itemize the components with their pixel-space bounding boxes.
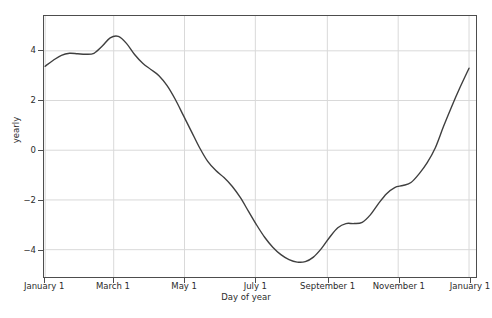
- y-tick-label: 0: [6, 145, 36, 155]
- y-tick-label: −4: [6, 245, 36, 255]
- data-line-yearly: [44, 16, 476, 277]
- y-tick-label: −2: [6, 195, 36, 205]
- x-axis-label: Day of year: [0, 292, 492, 302]
- x-tick-label: January 1: [425, 281, 492, 291]
- plot-area: [43, 15, 477, 278]
- y-tick-label: 2: [6, 95, 36, 105]
- y-tick-label: 4: [6, 45, 36, 55]
- figure-canvas: yearly 420−2−4 January 1March 1May 1July…: [0, 0, 492, 318]
